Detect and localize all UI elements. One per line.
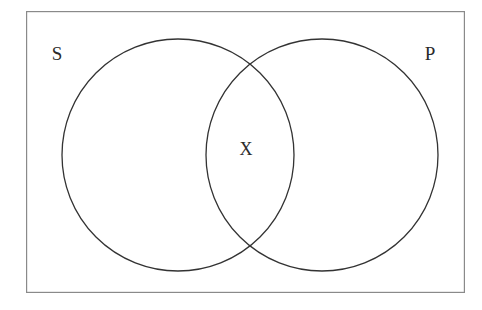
subject-label: S [52, 44, 63, 63]
subject-circle [62, 39, 294, 271]
predicate-label: P [425, 44, 436, 63]
intersection-marker: X [240, 140, 253, 158]
venn-diagram-canvas: S P X [0, 0, 482, 310]
